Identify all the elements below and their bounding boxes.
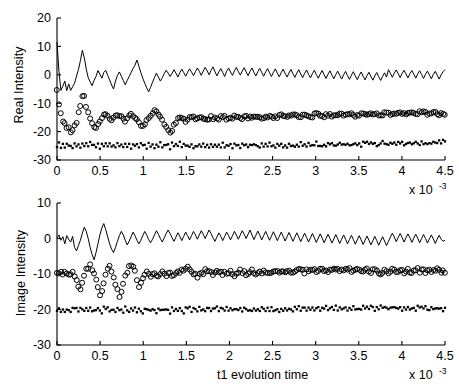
- x-tick-label: 4.5: [436, 349, 453, 363]
- chart-panel-real-intensity: 20100-10-20-3000.511.522.533.544.5x 10-3…: [0, 0, 459, 194]
- x-tick-label: 1: [140, 164, 147, 178]
- x-tick-label: 2: [226, 164, 233, 178]
- series-fit-circles: [54, 262, 447, 300]
- y-axis-label-image: Image Intensity: [14, 213, 28, 333]
- y-tick-label: 0: [44, 68, 51, 82]
- y-tick-label: -10: [33, 97, 51, 111]
- chart-panel-image-intensity: 100-10-20-3000.511.522.533.544.5x 10-3t1…: [0, 194, 459, 388]
- x-tick-label: 1.5: [178, 349, 195, 363]
- series-noise-dots: [56, 139, 446, 151]
- x-tick-label: 4: [398, 349, 405, 363]
- x-tick-label: 4: [398, 164, 405, 178]
- x-axis-exponent: x 10-3: [409, 181, 447, 194]
- x-axis-exponent: x 10-3: [409, 366, 447, 382]
- x-tick-label: 4.5: [436, 164, 453, 178]
- y-tick-label: -30: [33, 153, 51, 167]
- x-tick-label: 1: [140, 349, 147, 363]
- x-tick-label: 3.5: [350, 164, 367, 178]
- y-tick-label: 0: [44, 232, 51, 246]
- y-tick-label: -20: [33, 303, 51, 317]
- x-tick-label: 3.5: [350, 349, 367, 363]
- y-tick-label: 10: [37, 196, 51, 210]
- y-tick-label: 20: [37, 11, 51, 25]
- x-tick-label: 0: [54, 164, 61, 178]
- x-tick-label: 2: [226, 349, 233, 363]
- series-residual-line: [57, 42, 445, 92]
- x-tick-label: 3: [312, 164, 319, 178]
- y-tick-label: -20: [33, 125, 51, 139]
- svg-real-axes: 20100-10-20-3000.511.522.533.544.5x 10-3: [0, 0, 459, 194]
- x-tick-label: 2.5: [264, 164, 281, 178]
- svg-text:-3: -3: [439, 181, 447, 191]
- x-tick-label: 0.5: [91, 349, 108, 363]
- series-noise-dots: [56, 304, 446, 314]
- y-tick-label: -10: [33, 267, 51, 281]
- x-axis-label: t1 evolution time: [217, 368, 308, 382]
- svg-imag-axes: 100-10-20-3000.511.522.533.544.5x 10-3t1…: [0, 194, 459, 388]
- svg-text:-3: -3: [439, 366, 447, 376]
- y-tick-label: -30: [33, 338, 51, 352]
- x-tick-label: 0.5: [91, 164, 108, 178]
- svg-text:x 10: x 10: [409, 183, 433, 194]
- y-tick-label: 10: [37, 40, 51, 54]
- svg-text:x 10: x 10: [409, 368, 433, 382]
- series-fit-circles: [54, 87, 447, 135]
- y-axis-label-real: Real Intensity: [12, 25, 26, 145]
- x-tick-label: 2.5: [264, 349, 281, 363]
- x-tick-label: 1.5: [178, 164, 195, 178]
- series-residual-line: [57, 224, 445, 260]
- figure-root: 20100-10-20-3000.511.522.533.544.5x 10-3…: [0, 0, 459, 388]
- x-tick-label: 0: [54, 349, 61, 363]
- x-tick-label: 3: [312, 349, 319, 363]
